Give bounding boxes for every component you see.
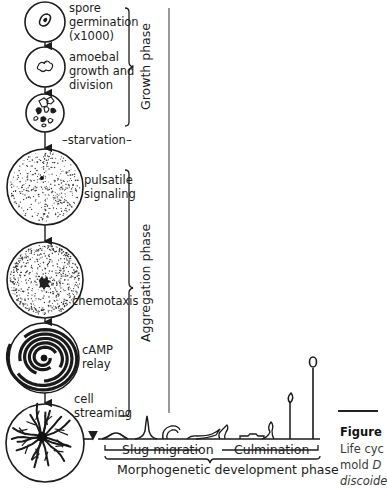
amoeba-dot bbox=[59, 188, 60, 189]
amoeba-dot bbox=[31, 180, 32, 181]
amoeba-dot bbox=[11, 271, 12, 272]
amoeba-dot bbox=[31, 204, 32, 205]
amoeba-dot bbox=[13, 275, 14, 276]
amoeba-dot bbox=[23, 199, 24, 200]
amoeba-dot bbox=[66, 303, 67, 304]
amoeba-dot bbox=[10, 280, 11, 281]
amoeba-dot bbox=[17, 281, 18, 282]
amoeba-dot bbox=[10, 281, 12, 283]
amoeba-dot bbox=[29, 278, 30, 279]
amoeba-dot bbox=[20, 276, 21, 277]
amoeba-dot bbox=[45, 209, 46, 210]
amoeba-dot bbox=[70, 260, 71, 261]
label-camp-1: cAMP bbox=[82, 343, 113, 357]
amoeba-dot bbox=[67, 211, 68, 212]
amoeba-dot bbox=[22, 194, 23, 195]
amoeba-dot bbox=[60, 310, 62, 312]
amoeba-dot bbox=[13, 198, 14, 199]
amoeba-dot bbox=[77, 180, 78, 181]
label-starvation: –starvation– bbox=[62, 133, 132, 147]
amoeba-dot bbox=[54, 185, 55, 186]
label-camp-2: relay bbox=[82, 357, 111, 371]
amoeba-dot bbox=[34, 295, 35, 296]
amoeba-dot bbox=[14, 279, 16, 281]
amoeba-dot bbox=[50, 184, 51, 185]
amoeba-dot bbox=[68, 254, 70, 256]
amoeba-dot bbox=[43, 216, 44, 217]
amoeba-dot bbox=[28, 249, 29, 250]
amoeba-dot bbox=[36, 284, 37, 285]
amoeba-dot bbox=[54, 280, 55, 281]
amoeba-dot bbox=[25, 303, 26, 304]
early-culminant-stage bbox=[219, 425, 228, 439]
amoeba-dot bbox=[52, 205, 53, 206]
amoeba-dot bbox=[77, 267, 78, 268]
amoeba-dot bbox=[65, 184, 66, 185]
amoeba-dot bbox=[68, 184, 69, 185]
amoeba-dot bbox=[18, 258, 19, 259]
amoeba-dot bbox=[29, 161, 30, 162]
amoeba-dot bbox=[49, 296, 50, 297]
amoeba-dot bbox=[62, 283, 63, 284]
amoeba-dot bbox=[45, 181, 46, 182]
amoeba-dot bbox=[23, 189, 24, 190]
amoeba-dot bbox=[24, 299, 26, 301]
amoeba-dot bbox=[43, 213, 44, 214]
amoeba-dot bbox=[52, 284, 53, 285]
amoeba-dot bbox=[57, 212, 58, 213]
amoebal-growth-circle bbox=[25, 47, 65, 87]
amoeba-dot bbox=[77, 197, 79, 199]
caption-title: Figure bbox=[340, 425, 382, 439]
amoeba-dot bbox=[19, 191, 20, 192]
amoeba-dot bbox=[79, 187, 80, 188]
amoeba-dot bbox=[69, 180, 70, 181]
amoeba-dot bbox=[32, 271, 33, 272]
amoeba-dot bbox=[29, 309, 31, 311]
amoeba-dot bbox=[44, 268, 45, 269]
amoeba-dot bbox=[70, 288, 71, 289]
amoeba-dot bbox=[31, 307, 32, 308]
amoeba-dot bbox=[38, 249, 39, 250]
amoeba-dot bbox=[56, 201, 57, 202]
camp-center-dot bbox=[41, 355, 47, 361]
amoeba-dot bbox=[26, 263, 28, 265]
amoeba-dot bbox=[67, 172, 68, 173]
scattered-amoebae-dots bbox=[10, 152, 80, 221]
amoeba-dot bbox=[69, 266, 70, 267]
label-pulsatile-2: signaling bbox=[84, 187, 136, 201]
amoeba-dot bbox=[41, 254, 42, 255]
amoeba-dot bbox=[62, 308, 63, 309]
amoeba-dot bbox=[40, 160, 42, 162]
amoeba-dot bbox=[37, 250, 38, 251]
amoeba-dot bbox=[39, 307, 40, 308]
amoeba-dot bbox=[75, 180, 77, 182]
amoeba-dot bbox=[13, 293, 14, 294]
amoeba-dot bbox=[19, 274, 21, 276]
amoeba-dot bbox=[27, 262, 28, 263]
amoeba-dot bbox=[41, 207, 42, 208]
amoeba-dot bbox=[37, 215, 38, 216]
amoeba-dot bbox=[54, 162, 56, 164]
amoeba-dot bbox=[59, 214, 60, 215]
amoeba-dot bbox=[72, 174, 74, 176]
amoeba-dot bbox=[47, 205, 48, 206]
amoeba-dot bbox=[71, 290, 73, 292]
amoeba-dot bbox=[28, 173, 29, 174]
amoeba-dot bbox=[32, 189, 33, 190]
amoeba-dot bbox=[50, 282, 51, 283]
caption-rule bbox=[338, 410, 378, 412]
amoeba-dot bbox=[32, 290, 33, 291]
amoeba-dot bbox=[18, 290, 19, 291]
amoeba-dot bbox=[16, 288, 17, 289]
amoeba-dot bbox=[50, 153, 51, 154]
growth-phase-label: Growth phase bbox=[138, 23, 153, 110]
amoeba-dot bbox=[78, 275, 79, 276]
amoeba-dot bbox=[46, 216, 47, 217]
amoeba-dot bbox=[53, 305, 54, 306]
amoeba-dot bbox=[30, 171, 31, 172]
amoeba-dot bbox=[62, 262, 63, 263]
amoeba-dot bbox=[21, 266, 23, 268]
amoeba-dot bbox=[23, 305, 24, 306]
amoeba-dot bbox=[35, 300, 36, 301]
amoeba-dot bbox=[38, 310, 39, 311]
